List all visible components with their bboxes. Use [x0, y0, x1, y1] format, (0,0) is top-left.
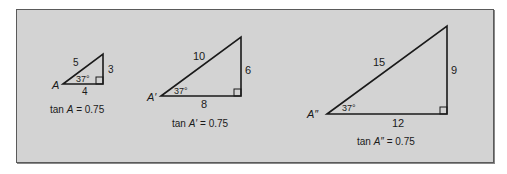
triangle-shape	[161, 37, 241, 96]
triangle-small: A 5 3 4 37° tan A = 0.75	[50, 54, 114, 115]
angle-label: 37°	[76, 74, 90, 84]
adjacent-label: 12	[392, 117, 404, 129]
vertex-label: A′	[146, 91, 157, 103]
opposite-label: 9	[451, 64, 457, 76]
right-angle-marker	[96, 77, 103, 84]
angle-label: 37°	[342, 103, 356, 113]
right-angle-marker	[234, 89, 241, 96]
triangle-medium: A′ 10 6 8 37° tan A′ = 0.75	[146, 37, 251, 129]
tangent-caption: tan A = 0.75	[50, 104, 105, 115]
hypotenuse-label: 10	[193, 50, 205, 62]
adjacent-label: 8	[201, 98, 207, 110]
similar-triangles-diagram: A 5 3 4 37° tan A = 0.75 A′ 10 6 8 37° t…	[0, 0, 507, 174]
tangent-caption: tan A″ = 0.75	[357, 136, 415, 147]
vertex-label: A	[51, 79, 59, 91]
tangent-caption: tan A′ = 0.75	[172, 118, 229, 129]
hypotenuse-label: 15	[373, 56, 385, 68]
angle-label: 37°	[174, 86, 188, 96]
adjacent-label: 4	[82, 86, 88, 97]
triangle-shape	[327, 26, 447, 114]
hypotenuse-label: 5	[73, 57, 79, 68]
right-angle-marker	[440, 107, 447, 114]
opposite-label: 3	[108, 64, 114, 75]
triangle-large: A″ 15 9 12 37° tan A″ = 0.75	[306, 26, 457, 147]
vertex-label: A″	[306, 108, 319, 120]
opposite-label: 6	[245, 64, 251, 76]
